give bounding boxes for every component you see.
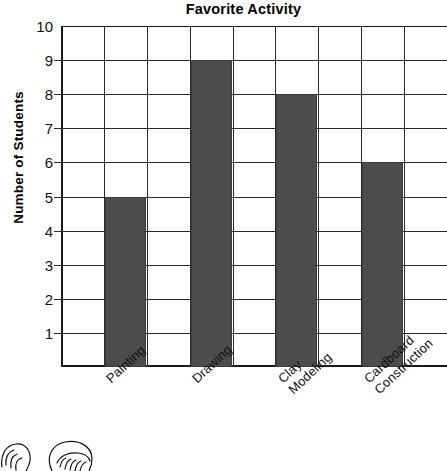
y-tick-label: 3: [17, 258, 53, 273]
y-tick-label: 10: [17, 19, 53, 34]
y-tick-mark: [54, 162, 62, 163]
gridline-horizontal: [61, 60, 447, 61]
gridline-horizontal: [61, 128, 447, 129]
gridline-vertical: [233, 26, 234, 367]
y-tick-mark: [54, 265, 62, 266]
two-childrens-heads-partial-icon: [0, 437, 120, 471]
plot-area: [61, 26, 447, 367]
y-tick-mark: [54, 197, 62, 198]
y-tick-mark: [54, 231, 62, 232]
y-tick-mark: [54, 333, 62, 334]
y-tick-label: 5: [17, 190, 53, 205]
y-tick-mark: [54, 128, 62, 129]
gridline-horizontal: [61, 94, 447, 95]
y-tick-label: 8: [17, 87, 53, 102]
y-tick-label: 1: [17, 326, 53, 341]
gridline-vertical: [404, 26, 405, 367]
y-tick-label: 4: [17, 224, 53, 239]
y-tick-mark: [54, 60, 62, 61]
y-tick-label: 9: [17, 53, 53, 68]
gridline-vertical: [147, 26, 148, 367]
bar-clay-modeling: [276, 94, 317, 367]
bar-drawing: [191, 60, 232, 367]
y-tick-label: 6: [17, 155, 53, 170]
chart-page: Favorite Activity Number of Students 109…: [0, 0, 447, 471]
y-tick-mark: [54, 94, 62, 95]
y-tick-label: 2: [17, 292, 53, 307]
bar-cardboard-construction: [362, 162, 403, 367]
y-tick-label: 7: [17, 121, 53, 136]
bar-painting: [105, 197, 146, 368]
chart-title: Favorite Activity: [0, 1, 447, 17]
y-tick-mark: [54, 299, 62, 300]
gridline-vertical: [318, 26, 319, 367]
